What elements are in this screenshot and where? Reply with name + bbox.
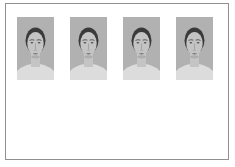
stimulus-frame [5,3,229,160]
face-stimulus-3[interactable] [123,17,160,80]
face-row [17,17,213,80]
face-stimulus-1[interactable] [17,17,54,80]
female-portrait-image [176,17,213,80]
female-portrait-image [17,17,54,80]
face-stimulus-2[interactable] [70,17,107,80]
face-stimulus-4[interactable] [176,17,213,80]
female-portrait-image [123,17,160,80]
female-portrait-image [70,17,107,80]
